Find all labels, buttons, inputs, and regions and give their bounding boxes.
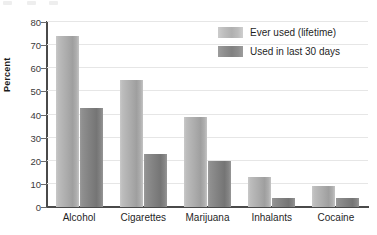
y-tick-label: 20 xyxy=(3,155,41,166)
y-tick-mark xyxy=(41,68,47,69)
bar xyxy=(80,108,103,207)
chart-legend: Ever used (lifetime) Used in last 30 day… xyxy=(218,24,370,62)
x-tick-label: Inhalants xyxy=(251,212,292,223)
x-tick-label: Marijuana xyxy=(186,212,230,223)
y-tick-label: 40 xyxy=(3,109,41,120)
bar-group xyxy=(120,22,167,207)
y-tick-mark xyxy=(41,138,47,139)
legend-item-last-30-days: Used in last 30 days xyxy=(218,43,370,60)
bar-chart: Percent 01020304050607080 AlcoholCigaret… xyxy=(0,0,377,235)
x-axis-tick-labels: AlcoholCigarettesMarijuanaInhalantsCocai… xyxy=(47,210,368,232)
bar xyxy=(184,117,207,207)
bar-group xyxy=(56,22,103,207)
y-tick-mark xyxy=(41,45,47,46)
bar xyxy=(248,177,271,207)
y-tick-mark xyxy=(41,115,47,116)
bar xyxy=(56,36,79,207)
y-tick-label: 80 xyxy=(3,17,41,28)
x-tick-label: Alcohol xyxy=(63,212,96,223)
bar xyxy=(120,80,143,207)
y-tick-label: 10 xyxy=(3,178,41,189)
legend-swatch-light-icon xyxy=(218,27,243,38)
y-tick-label: 70 xyxy=(3,40,41,51)
y-axis-tick-labels: 01020304050607080 xyxy=(0,0,41,235)
bar xyxy=(312,186,335,207)
legend-label: Used in last 30 days xyxy=(250,46,340,57)
legend-swatch-dark-icon xyxy=(218,46,243,57)
legend-label: Ever used (lifetime) xyxy=(250,27,336,38)
bar xyxy=(144,154,167,207)
y-tick-mark xyxy=(41,207,47,208)
bar xyxy=(336,198,359,207)
y-tick-mark xyxy=(41,91,47,92)
x-tick-label: Cigarettes xyxy=(121,212,167,223)
bar xyxy=(208,161,231,207)
y-tick-label: 30 xyxy=(3,132,41,143)
legend-item-ever-used: Ever used (lifetime) xyxy=(218,24,370,41)
bar xyxy=(272,198,295,207)
y-tick-mark xyxy=(41,22,47,23)
y-tick-mark xyxy=(41,184,47,185)
y-tick-label: 0 xyxy=(3,202,41,213)
y-tick-mark xyxy=(41,161,47,162)
x-tick-label: Cocaine xyxy=(318,212,355,223)
y-tick-label: 60 xyxy=(3,63,41,74)
y-tick-label: 50 xyxy=(3,86,41,97)
